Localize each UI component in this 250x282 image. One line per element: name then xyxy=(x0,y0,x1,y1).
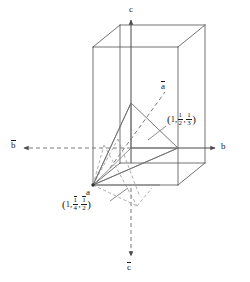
paren-close-lower: ) xyxy=(87,198,91,210)
box-edge-depth-top-left xyxy=(93,25,120,47)
a-overbar-glyph: a xyxy=(161,81,165,91)
coord-lower-second-component-fraction: 14 xyxy=(73,196,78,213)
origin-ray-to-apex xyxy=(93,103,131,185)
coord-label-upper-plane: (1,12,13) xyxy=(167,112,196,128)
overbar-numerator-second: 1 xyxy=(74,196,77,204)
axis-label-c-negative: c xyxy=(127,262,131,272)
coord-lower-second-denominator: 4 xyxy=(73,204,78,212)
axis-label-b-negative: b xyxy=(11,140,16,150)
box-back-face xyxy=(120,25,205,163)
axis-label-a-negative: a xyxy=(161,81,165,91)
box-edge-depth-top-right xyxy=(178,25,205,47)
origin-ray-to-right xyxy=(93,148,178,185)
box-edge-depth-bottom-right xyxy=(178,163,205,185)
coord-third-component-fraction: 13 xyxy=(186,112,191,128)
paren-close: ) xyxy=(192,113,196,125)
diagram-canvas xyxy=(0,0,250,282)
origin-vertex-marker xyxy=(91,183,94,186)
coord-lower-third-denominator: 2 xyxy=(81,204,86,212)
coord-second-denominator: 2 xyxy=(178,119,183,127)
axis-label-c-positive: c xyxy=(129,5,133,14)
c-overbar-glyph: c xyxy=(127,262,131,272)
construction-origin-to-c-intercept xyxy=(93,148,131,185)
box-front-face xyxy=(93,47,178,185)
coord-lower-third-numerator: 1 xyxy=(81,196,86,204)
coord-third-numerator: 1 xyxy=(186,112,191,119)
b-overbar-glyph: b xyxy=(11,140,16,150)
overbar-numerator-third: 1 xyxy=(82,196,85,204)
coord-second-component-fraction: 12 xyxy=(178,112,183,128)
coord-lower-third-component-fraction: 12 xyxy=(81,196,86,213)
coord-lower-second-numerator: 1 xyxy=(73,196,78,204)
lower-plane-edge-3 xyxy=(93,185,137,206)
coord-third-denominator: 3 xyxy=(186,119,191,127)
axis-label-b-positive: b xyxy=(221,142,226,151)
lower-plane-edge-6 xyxy=(137,188,152,206)
leader-line-lower-label xyxy=(110,188,128,201)
coord-label-lower-plane: (1,14,12) xyxy=(62,196,91,213)
crystal-diagram-figure: c c b b a a (1,12,13) (1,14,12) xyxy=(0,0,250,282)
upper-plane-construction xyxy=(93,103,178,185)
coord-second-numerator: 1 xyxy=(178,112,183,119)
